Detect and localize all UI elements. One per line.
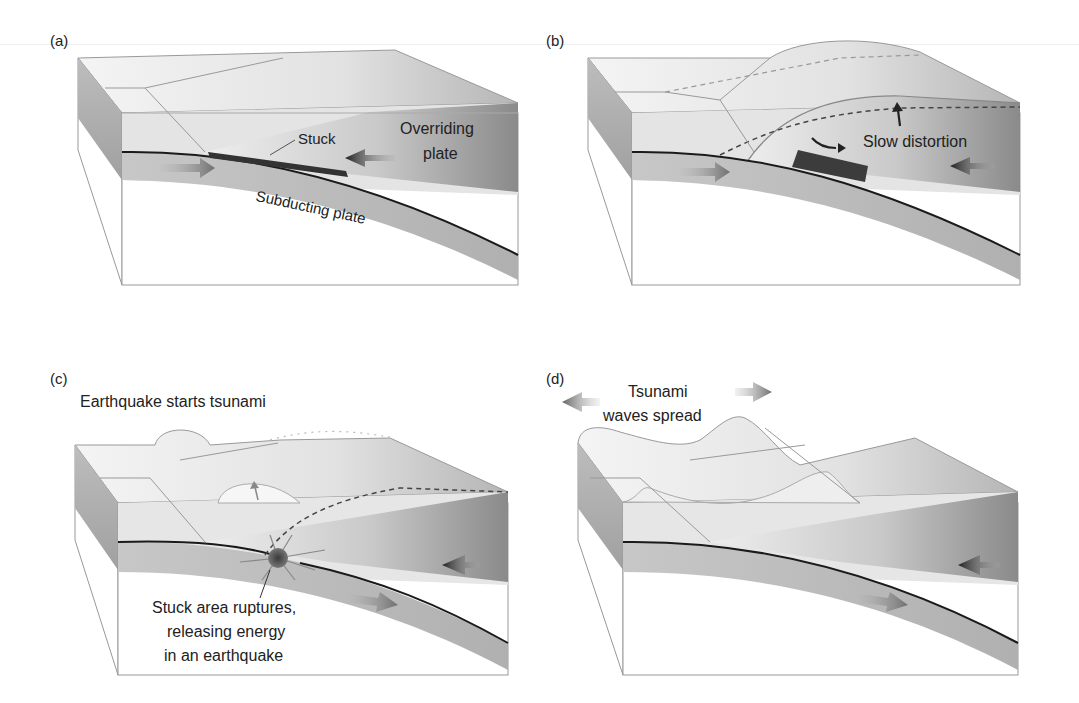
rupture-label-line1: Stuck area ruptures, bbox=[152, 599, 296, 617]
subduction-block-diagram-d bbox=[540, 340, 1079, 703]
panel-d: (d) Tsunami waves spread bbox=[540, 340, 1079, 703]
panel-b: (b) Slow distortion bbox=[540, 0, 1079, 300]
slow-distortion-label: Slow distortion bbox=[863, 133, 967, 151]
rupture-label-line2: releasing energy bbox=[167, 623, 285, 641]
overriding-plate-label-line1: Overriding bbox=[400, 120, 474, 138]
overriding-plate-label-line2: plate bbox=[423, 145, 458, 163]
subduction-block-diagram-b bbox=[540, 0, 1079, 300]
stuck-label: Stuck bbox=[298, 130, 336, 148]
rupture-label-line3: in an earthquake bbox=[164, 647, 283, 665]
subduction-block-diagram-a bbox=[0, 0, 540, 300]
panel-c: (c) Earthquake starts tsunami bbox=[0, 340, 540, 703]
panel-a: (a) Stuck Overriding plate Subducting pl… bbox=[0, 0, 540, 300]
